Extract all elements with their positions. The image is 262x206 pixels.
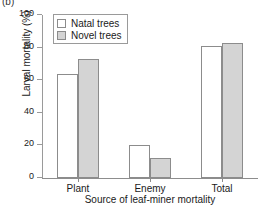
legend-label-novel: Novel trees [71,30,122,41]
bar-plant-natal [57,74,78,178]
y-axis-tick-label: 0 [29,171,34,182]
bar-total-natal [201,46,222,178]
bar-total-novel [222,43,243,178]
bar-plant-novel [78,59,99,178]
y-axis-tick: 60 [37,79,42,80]
y-axis-tick: 40 [37,112,42,113]
x-axis-tick [222,178,223,182]
legend-item-natal[interactable]: Natal trees [57,17,122,29]
x-axis-tick [150,178,151,182]
y-axis-tick-label: 100 [19,8,34,19]
y-axis-tick-label: 60 [24,73,34,84]
x-axis-label-total: Total [211,183,232,195]
y-axis-tick-label: 80 [24,41,34,52]
legend-swatch-natal-icon [57,19,66,28]
x-axis-label-plant: Plant [67,183,90,195]
x-axis-tick [78,178,79,182]
y-axis-tick: 0 [37,177,42,178]
legend-item-novel[interactable]: Novel trees [57,29,122,41]
y-axis-tick: 100 [37,14,42,15]
x-axis-label-enemy: Enemy [134,183,165,195]
x-axis-title: Source of leaf-miner mortality [42,194,258,206]
legend-swatch-novel-icon [57,31,66,40]
y-axis-tick-label: 20 [24,138,34,149]
y-axis-tick: 80 [37,47,42,48]
legend-label-natal: Natal trees [71,18,119,29]
panel-label: (b) [2,0,14,7]
y-axis-tick-label: 40 [24,106,34,117]
chart-legend: Natal trees Novel trees [53,14,128,44]
bar-enemy-novel [150,158,171,178]
bar-enemy-natal [129,145,150,178]
figure-panel-b: (b) Larval mortality (%) 020406080100 So… [0,0,262,206]
y-axis-tick: 20 [37,144,42,145]
